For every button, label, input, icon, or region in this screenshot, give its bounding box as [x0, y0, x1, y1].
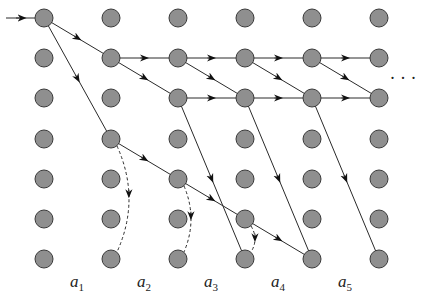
arrowhead-icon: [342, 76, 345, 78]
dashed-edge: [117, 146, 129, 252]
arrowhead-icon: [141, 157, 144, 159]
node-2-5: [169, 210, 187, 228]
node-4-4: [303, 170, 321, 188]
node-0-3: [35, 130, 53, 148]
node-3-5: [236, 210, 254, 228]
node-4-5: [303, 210, 321, 228]
node-3-6: [236, 250, 254, 268]
label-a5: a5: [338, 272, 353, 293]
arrowhead-icon: [141, 76, 144, 78]
node-4-1: [303, 49, 321, 67]
arrowhead-icon: [74, 36, 77, 38]
arrowhead-icon: [275, 237, 278, 239]
node-5-3: [370, 130, 388, 148]
arrowhead-icon: [344, 175, 346, 179]
label-a3: a3: [204, 272, 219, 293]
label-a1: a1: [70, 272, 84, 293]
ellipsis: · · ·: [390, 68, 417, 88]
grid-graph-diagram: a1a2a3a4a5 · · ·: [0, 0, 432, 302]
node-1-1: [102, 49, 120, 67]
node-5-4: [370, 170, 388, 188]
node-3-1: [236, 49, 254, 67]
node-0-1: [35, 49, 53, 67]
nodes-layer: [35, 9, 388, 268]
arrowhead-icon: [208, 76, 211, 78]
node-1-5: [102, 210, 120, 228]
dashed-edge: [251, 226, 255, 252]
node-4-3: [303, 130, 321, 148]
node-1-0: [102, 9, 120, 27]
node-3-4: [236, 170, 254, 188]
node-2-3: [169, 130, 187, 148]
node-2-4: [169, 170, 187, 188]
node-2-1: [169, 49, 187, 67]
arrowhead-icon: [76, 75, 78, 78]
column-labels: a1a2a3a4a5: [70, 272, 353, 293]
node-1-2: [102, 89, 120, 107]
node-5-5: [370, 210, 388, 228]
node-1-6: [102, 250, 120, 268]
label-a2: a2: [137, 272, 151, 293]
node-2-2: [169, 89, 187, 107]
node-5-1: [370, 49, 388, 67]
node-0-6: [35, 250, 53, 268]
node-5-6: [370, 250, 388, 268]
arrowhead-icon: [208, 197, 211, 199]
node-3-3: [236, 130, 254, 148]
node-0-0: [35, 9, 53, 27]
node-5-2: [370, 89, 388, 107]
label-a4: a4: [271, 272, 286, 293]
edges-layer: [6, 18, 379, 259]
arrowhead-icon: [277, 175, 279, 179]
node-4-6: [303, 250, 321, 268]
node-4-2: [303, 89, 321, 107]
node-3-2: [236, 89, 254, 107]
node-0-2: [35, 89, 53, 107]
node-0-4: [35, 170, 53, 188]
node-2-6: [169, 250, 187, 268]
arrowhead-icon: [275, 76, 278, 78]
node-5-0: [370, 9, 388, 27]
dashed-edges-layer: [117, 146, 255, 252]
node-1-4: [102, 170, 120, 188]
node-1-3: [102, 130, 120, 148]
node-3-0: [236, 9, 254, 27]
arrowhead-icon: [210, 175, 212, 179]
node-2-0: [169, 9, 187, 27]
node-4-0: [303, 9, 321, 27]
node-0-5: [35, 210, 53, 228]
